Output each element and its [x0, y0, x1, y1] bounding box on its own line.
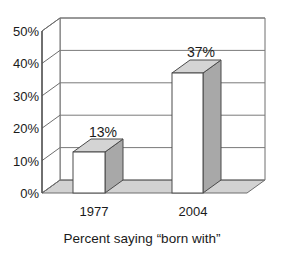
y-tick-label-40: 40%: [13, 56, 39, 71]
bar-chart-3d: 50% 40% 30% 20% 10% 0% 13% 37% 1977 2004…: [0, 0, 282, 256]
y-tick-label-50: 50%: [13, 24, 39, 39]
bar-1977-front: [73, 152, 105, 193]
y-tick-label-0: 0%: [20, 186, 39, 201]
y-tick-label-20: 20%: [13, 121, 39, 136]
y-tick-label-30: 30%: [13, 89, 39, 104]
bar-value-label-1977: 13%: [89, 124, 117, 140]
bar-2004-side: [203, 60, 221, 193]
bar-value-label-2004: 37%: [187, 44, 215, 60]
x-tick-label-2004: 2004: [179, 204, 208, 219]
chart-caption: Percent saying “born with”: [64, 231, 221, 246]
bar-2004[interactable]: [172, 60, 221, 193]
bar-2004-front: [172, 73, 203, 193]
bar-1977[interactable]: [73, 139, 123, 193]
x-tick-label-1977: 1977: [80, 204, 109, 219]
chart-left-wall: [42, 18, 60, 193]
y-tick-label-10: 10%: [13, 154, 39, 169]
chart-container: 50% 40% 30% 20% 10% 0% 13% 37% 1977 2004…: [0, 0, 282, 256]
